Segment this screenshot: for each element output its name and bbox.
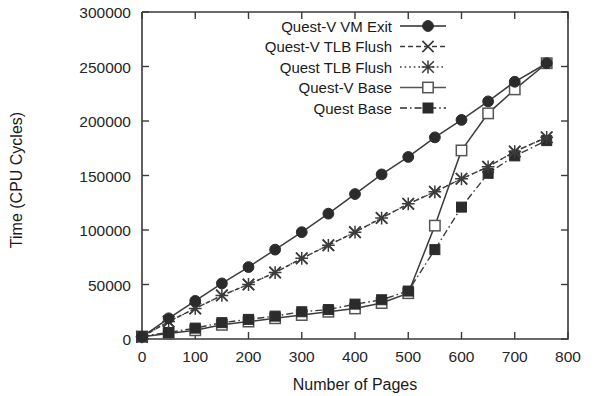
data-point-marker: [164, 327, 174, 337]
data-point-marker: [190, 323, 200, 333]
y-tick-label: 250000: [79, 59, 131, 76]
data-point-marker: [541, 58, 552, 69]
legend-label: Quest-V Base: [299, 79, 392, 96]
x-axis-tick-labels: 0100200300400500600700800: [138, 348, 582, 365]
data-point-marker: [430, 220, 440, 230]
data-point-marker: [216, 278, 227, 289]
data-point-marker: [137, 331, 148, 342]
legend-label: Quest TLB Flush: [280, 59, 392, 76]
data-point-marker: [423, 21, 434, 32]
x-tick-label: 800: [555, 348, 581, 365]
data-point-marker: [403, 152, 414, 163]
cpu-cycles-line-chart: 0100200300400500600700800 05000010000015…: [0, 0, 599, 396]
data-point-marker: [243, 262, 254, 273]
legend-marker-sample: [423, 21, 434, 32]
data-point-marker: [422, 61, 435, 74]
data-point-marker: [350, 299, 360, 309]
data-point-marker: [270, 311, 280, 321]
data-point-marker: [456, 115, 467, 126]
data-point-marker: [377, 295, 387, 305]
data-point-marker: [509, 76, 520, 87]
x-axis-title: Number of Pages: [293, 376, 418, 393]
y-tick-label: 150000: [79, 168, 131, 185]
data-point-marker: [163, 313, 174, 324]
x-tick-label: 0: [138, 348, 147, 365]
y-tick-label: 50000: [88, 277, 131, 294]
legend-label: Quest-V VM Exit: [281, 18, 393, 35]
y-tick-label: 0: [122, 331, 131, 348]
legend-marker-sample: [423, 82, 433, 92]
y-tick-label: 300000: [79, 4, 131, 21]
y-tick-label: 100000: [79, 222, 131, 239]
data-point-marker: [423, 103, 433, 113]
data-point-marker: [457, 202, 467, 212]
data-point-marker: [296, 227, 307, 238]
x-tick-label: 700: [502, 348, 528, 365]
data-point-marker: [430, 245, 440, 255]
x-tick-label: 200: [236, 348, 262, 365]
data-point-marker: [323, 305, 333, 315]
data-point-marker: [483, 108, 493, 118]
data-point-marker: [429, 132, 440, 143]
data-point-marker: [297, 307, 307, 317]
data-point-marker: [323, 208, 334, 219]
data-point-marker: [270, 244, 281, 255]
data-point-marker: [403, 286, 413, 296]
data-point-marker: [483, 96, 494, 107]
x-tick-label: 500: [395, 348, 421, 365]
data-point-marker: [244, 314, 254, 324]
data-point-marker: [217, 318, 227, 328]
legend-marker-sample: [423, 103, 433, 113]
data-point-marker: [376, 169, 387, 180]
x-tick-label: 100: [182, 348, 208, 365]
x-tick-label: 400: [342, 348, 368, 365]
data-point-marker: [456, 145, 466, 155]
x-tick-label: 300: [289, 348, 315, 365]
data-point-marker: [423, 82, 433, 92]
legend-label: Quest Base: [314, 100, 392, 117]
legend-marker-sample: [422, 61, 435, 74]
y-axis-title: Time (CPU Cycles): [8, 112, 25, 248]
data-point-marker: [350, 189, 361, 200]
chart-figure: 0100200300400500600700800 05000010000015…: [0, 0, 599, 396]
x-tick-label: 600: [449, 348, 475, 365]
legend-label: Quest-V TLB Flush: [265, 38, 392, 55]
data-point-marker: [190, 295, 201, 306]
y-tick-label: 200000: [79, 113, 131, 130]
